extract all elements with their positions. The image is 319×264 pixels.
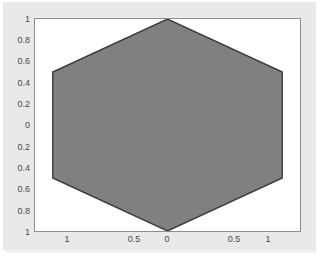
- y-tick-label-5: 0: [6, 120, 30, 130]
- y-tick-label-2: 0.6: [6, 56, 30, 66]
- y-tick-label-4: 0.2: [6, 99, 30, 109]
- figure-shadow: [6, 250, 316, 253]
- plot-axes-box: [34, 18, 301, 232]
- y-tick-label-8: 0.6: [6, 184, 30, 194]
- y-tick-label-0: 1: [6, 14, 30, 24]
- x-tick-label-0: 1: [52, 234, 82, 244]
- y-tick-label-10: 1: [6, 227, 30, 237]
- hexagon-polygon: [53, 19, 282, 231]
- y-tick-label-6: 0.2: [6, 142, 30, 152]
- x-tick-label-1: 0.5: [119, 234, 149, 244]
- plot-svg: [35, 19, 300, 231]
- y-tick-label-9: 0.8: [6, 206, 30, 216]
- x-tick-label-4: 1: [253, 234, 283, 244]
- y-tick-label-7: 0.4: [6, 163, 30, 173]
- y-tick-label-1: 0.8: [6, 35, 30, 45]
- matlab-figure-window: 1 0.8 0.6 0.4 0.2 0 0.2 0.4 0.6 0.8 1 1 …: [0, 0, 319, 264]
- x-tick-label-2: 0: [152, 234, 182, 244]
- x-tick-label-3: 0.5: [219, 234, 249, 244]
- y-tick-label-3: 0.4: [6, 78, 30, 88]
